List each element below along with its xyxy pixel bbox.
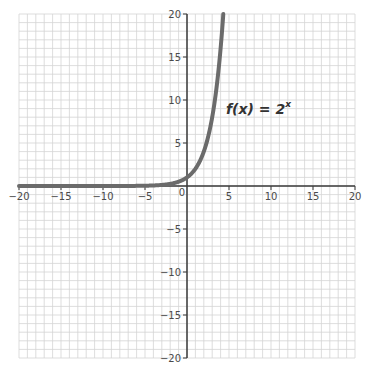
x-tick-label: −15 bbox=[50, 191, 71, 202]
x-tick-label: −10 bbox=[92, 191, 113, 202]
y-tick-label: −15 bbox=[160, 310, 181, 321]
x-tick-label: −20 bbox=[8, 191, 29, 202]
x-tick-label: 0 bbox=[179, 187, 185, 198]
x-tick-label: −5 bbox=[138, 191, 153, 202]
x-tick-label: 10 bbox=[265, 191, 278, 202]
function-label-exponent: x bbox=[284, 99, 292, 109]
x-tick-label: 5 bbox=[226, 191, 232, 202]
y-tick-label: −5 bbox=[166, 224, 181, 235]
function-label-main: f(x) = 2 bbox=[226, 101, 285, 117]
y-tick-label: −20 bbox=[160, 353, 181, 364]
y-tick-label: −10 bbox=[160, 267, 181, 278]
exponential-function-graph: −20−15−10−505101520 −20−15−10−55101520 f… bbox=[0, 0, 372, 377]
y-tick-label: 20 bbox=[168, 9, 181, 20]
y-tick-label: 10 bbox=[168, 95, 181, 106]
x-tick-label: 15 bbox=[307, 191, 320, 202]
y-tick-label: 15 bbox=[168, 52, 181, 63]
function-label: f(x) = 2x bbox=[226, 99, 292, 117]
y-tick-label: 5 bbox=[175, 138, 181, 149]
x-tick-label: 20 bbox=[349, 191, 362, 202]
